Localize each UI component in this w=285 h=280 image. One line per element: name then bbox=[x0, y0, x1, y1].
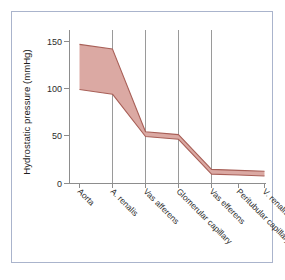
x-category-label-a-renalis: A. renalis bbox=[109, 186, 141, 218]
hydrostatic-pressure-area-chart: Hydrostatic pressure (mmHg) 150 100 50 0 bbox=[0, 0, 285, 280]
x-category-label-aorta: Aorta bbox=[76, 186, 97, 207]
figure-container: Hydrostatic pressure (mmHg) 150 100 50 0 bbox=[0, 0, 285, 280]
x-category-label-glomerular-capillary: Glomerular capillary bbox=[175, 186, 235, 246]
pressure-band-area bbox=[80, 44, 265, 176]
y-tick-label-100: 100 bbox=[47, 84, 62, 94]
pressure-lower-bound-line bbox=[80, 90, 265, 176]
y-axis-title: Hydrostatic pressure (mmHg) bbox=[21, 49, 32, 174]
y-tick-label-150: 150 bbox=[47, 37, 62, 47]
y-tick-label-0: 0 bbox=[57, 179, 62, 189]
y-tick-label-50: 50 bbox=[52, 131, 62, 141]
chart-plot-area: Hydrostatic pressure (mmHg) 150 100 50 0 bbox=[0, 0, 285, 280]
